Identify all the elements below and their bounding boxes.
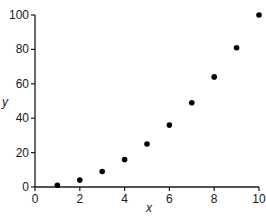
scatter-chart: 0246810 020406080100 x y: [0, 0, 266, 217]
x-tick-label: 2: [76, 192, 83, 206]
x-tick-label: 0: [32, 192, 39, 206]
y-axis-ticks: 020406080100: [9, 8, 35, 194]
data-point: [256, 12, 262, 18]
data-point: [234, 45, 240, 51]
y-axis-label: y: [1, 95, 9, 109]
data-point: [77, 177, 83, 183]
x-tick-label: 10: [252, 192, 266, 206]
x-tick-label: 4: [121, 192, 128, 206]
y-tick-label: 0: [22, 180, 29, 194]
y-tick-label: 100: [9, 8, 29, 22]
data-point: [167, 122, 173, 128]
data-point: [122, 157, 128, 163]
data-point: [55, 182, 61, 188]
y-tick-label: 20: [16, 146, 30, 160]
x-tick-label: 8: [211, 192, 218, 206]
x-axis-label: x: [145, 201, 153, 215]
data-point: [144, 141, 150, 147]
data-points: [55, 12, 262, 188]
y-tick-label: 80: [16, 42, 30, 56]
data-point: [189, 100, 195, 106]
y-tick-label: 40: [16, 111, 30, 125]
data-point: [211, 74, 217, 80]
x-tick-label: 6: [166, 192, 173, 206]
y-tick-label: 60: [16, 77, 30, 91]
axes: 0246810 020406080100: [9, 8, 266, 206]
data-point: [99, 169, 105, 175]
